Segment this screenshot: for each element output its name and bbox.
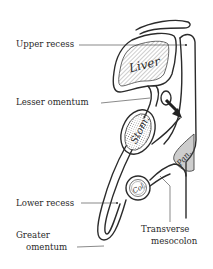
posterior-abdominal-wall	[180, 35, 196, 218]
label-upper-recess: Upper recess	[16, 39, 74, 49]
diaphragm-line	[136, 20, 190, 34]
label-lesser-omentum: Lesser omentum	[16, 97, 89, 107]
leader-transverse-mesocolon	[160, 176, 170, 222]
leader-greater-omentum	[77, 246, 104, 247]
leader-lesser-omentum	[101, 98, 150, 103]
omental-bursa-diagram: Liver Stom. Pan. Col. Upper recess Lesse…	[0, 0, 213, 269]
label-lower-recess: Lower recess	[16, 198, 74, 208]
transverse-mesocolon-lower	[150, 174, 170, 186]
lesser-omentum-line-2	[156, 86, 158, 106]
bursa-posterior-wall	[152, 118, 180, 144]
label-transverse-mesocolon-2: mesocolon	[151, 236, 198, 246]
label-greater-omentum-1: Greater	[16, 230, 51, 240]
label-greater-omentum-2: omentum	[26, 242, 67, 252]
transverse-mesocolon-upper	[150, 164, 186, 180]
label-transverse-mesocolon-1: Transverse	[141, 224, 189, 234]
